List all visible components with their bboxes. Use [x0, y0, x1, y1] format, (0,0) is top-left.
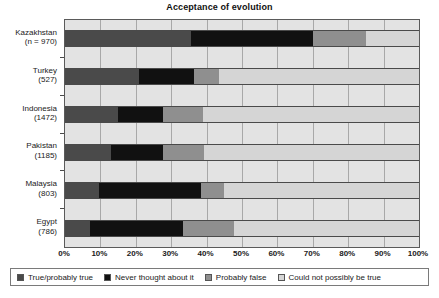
bar-segment [313, 31, 366, 46]
y-axis-label-egypt: Egypt(786) [0, 217, 57, 236]
x-axis-tick-label: 50% [233, 249, 249, 258]
y-axis-label-turkey: Turkey(527) [0, 66, 57, 85]
bar-row [65, 30, 419, 47]
bar-segment [366, 31, 419, 46]
legend-item[interactable]: True/probably true [17, 273, 93, 282]
sample-size: (1185) [0, 151, 57, 161]
plot-area [64, 19, 420, 248]
y-axis-label-malaysia: Malaysia(803) [0, 179, 57, 198]
legend-label: Probably false [216, 273, 267, 282]
x-axis-tick-label: 20% [127, 249, 143, 258]
bar-segment [65, 69, 139, 84]
legend-swatch-icon [205, 274, 212, 281]
bar-segment [191, 31, 313, 46]
bar-segment [224, 183, 419, 198]
country-name: Malaysia [0, 179, 57, 189]
chart-container: Acceptance of evolution Kazakhstan(n = 9… [0, 0, 439, 298]
sample-size: (n = 970) [0, 37, 57, 47]
x-axis-tick-label: 80% [339, 249, 355, 258]
sample-size: (1472) [0, 113, 57, 123]
y-axis-label-kazakhstan: Kazakhstan(n = 970) [0, 28, 57, 47]
x-axis-labels: 0%10%20%30%40%50%60%70%80%90%100% [64, 249, 418, 261]
legend-swatch-icon [278, 274, 285, 281]
chart-legend: True/probably trueNever thought about it… [10, 268, 429, 286]
legend-item[interactable]: Could not possibly be true [278, 273, 382, 282]
y-axis-label-pakistan: Pakistan(1185) [0, 141, 57, 160]
y-axis-label-indonesia: Indonesia(1472) [0, 104, 57, 123]
bar-segment [194, 69, 219, 84]
sample-size: (786) [0, 227, 57, 237]
x-axis-tick-label: 10% [91, 249, 107, 258]
bar-segment [65, 183, 99, 198]
bar-segment [65, 221, 90, 236]
legend-swatch-icon [104, 274, 111, 281]
legend-label: Never thought about it [115, 273, 194, 282]
bar-segment [65, 31, 191, 46]
legend-item[interactable]: Probably false [205, 273, 267, 282]
bar-row [65, 220, 419, 237]
legend-label: Could not possibly be true [289, 273, 382, 282]
bars-layer [65, 20, 419, 247]
chart-title: Acceptance of evolution [0, 2, 439, 12]
x-axis-tick-label: 90% [375, 249, 391, 258]
x-axis-tick-label: 60% [268, 249, 284, 258]
sample-size: (527) [0, 75, 57, 85]
bar-segment [99, 183, 201, 198]
x-axis-tick-label: 40% [198, 249, 214, 258]
sample-size: (803) [0, 189, 57, 199]
country-name: Turkey [0, 66, 57, 76]
x-axis-tick-label: 30% [162, 249, 178, 258]
bar-segment [65, 145, 111, 160]
legend-swatch-icon [17, 274, 24, 281]
bar-segment [234, 221, 419, 236]
bar-row [65, 106, 419, 123]
bar-row [65, 182, 419, 199]
x-axis-tick-label: 70% [304, 249, 320, 258]
bar-segment [118, 107, 163, 122]
legend-item[interactable]: Never thought about it [104, 273, 194, 282]
country-name: Pakistan [0, 141, 57, 151]
bar-segment [111, 145, 163, 160]
y-axis-labels: Kazakhstan(n = 970)Turkey(527)Indonesia(… [0, 19, 60, 246]
bar-segment [203, 107, 419, 122]
bar-segment [139, 69, 194, 84]
bar-segment [183, 221, 234, 236]
country-name: Indonesia [0, 104, 57, 114]
x-axis-tick-label: 0% [58, 249, 70, 258]
bar-segment [204, 145, 419, 160]
bar-segment [163, 107, 203, 122]
bar-row [65, 68, 419, 85]
bar-row [65, 144, 419, 161]
country-name: Egypt [0, 217, 57, 227]
legend-label: True/probably true [28, 273, 93, 282]
bar-segment [163, 145, 204, 160]
x-axis-tick-label: 100% [408, 249, 428, 258]
bar-segment [65, 107, 118, 122]
bar-segment [90, 221, 183, 236]
bar-segment [219, 69, 419, 84]
bar-segment [201, 183, 224, 198]
country-name: Kazakhstan [0, 28, 57, 38]
